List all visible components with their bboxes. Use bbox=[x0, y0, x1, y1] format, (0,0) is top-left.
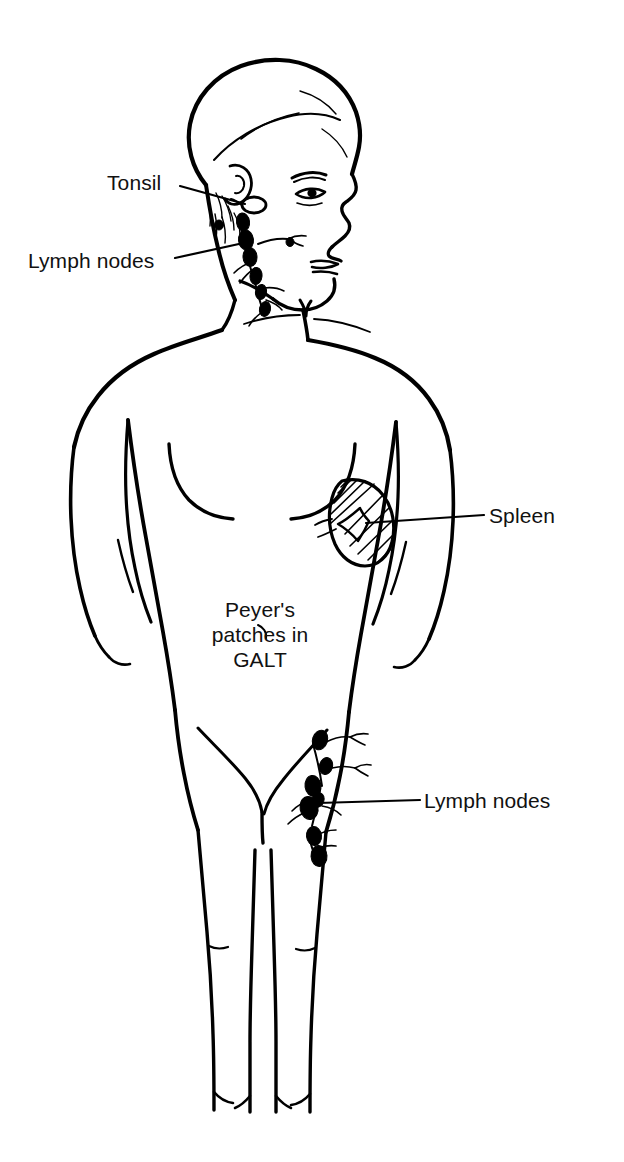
label-tonsil: Tonsil bbox=[107, 170, 161, 195]
body-line-drawing bbox=[0, 0, 624, 1162]
label-lymph-nodes-lower: Lymph nodes bbox=[424, 788, 550, 813]
head-outline bbox=[189, 60, 360, 310]
galt-line-3: GALT bbox=[196, 647, 324, 672]
figure-canvas: Tonsil Lymph nodes Spleen Peyer's patche… bbox=[0, 0, 624, 1162]
galt-line-1: Peyer's bbox=[196, 597, 324, 622]
label-spleen: Spleen bbox=[489, 503, 555, 528]
leader-lymph-upper bbox=[175, 242, 248, 258]
leader-lines bbox=[175, 186, 484, 803]
inguinal-lymph-nodes bbox=[288, 728, 371, 867]
neck-and-shoulders bbox=[74, 185, 450, 450]
label-peyers-patches-galt: Peyer's patches in GALT bbox=[196, 597, 324, 672]
leader-tonsil bbox=[180, 186, 245, 204]
galt-line-2: patches in bbox=[196, 622, 324, 647]
label-lymph-nodes-upper: Lymph nodes bbox=[28, 248, 154, 273]
